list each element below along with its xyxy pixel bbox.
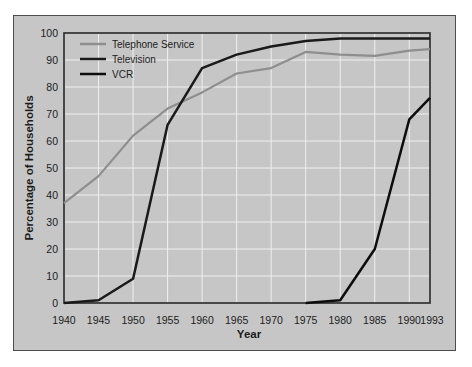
x-tick-label: 1960: [190, 314, 214, 326]
x-tick-label: 1955: [156, 314, 180, 326]
x-tick-label: 1945: [87, 314, 111, 326]
series-line-vcr: [306, 98, 430, 303]
x-tick-label: 1990: [398, 314, 422, 326]
legend-label-television: Television: [112, 54, 156, 65]
households-line-chart: 0102030405060708090100194019451950195519…: [0, 0, 472, 367]
x-axis-title: Year: [237, 328, 261, 340]
x-tick-label: 1975: [294, 314, 318, 326]
legend-label-vcr: VCR: [112, 69, 133, 80]
x-tick-label: 1980: [329, 314, 353, 326]
y-tick-label: 90: [46, 54, 58, 66]
y-tick-label: 60: [46, 135, 58, 147]
x-tick-label: 1993: [420, 314, 444, 326]
x-tick-label: 1965: [225, 314, 249, 326]
y-tick-label: 20: [46, 243, 58, 255]
y-tick-label: 80: [46, 81, 58, 93]
y-tick-label: 70: [46, 108, 58, 120]
y-tick-label: 0: [52, 297, 58, 309]
y-axis-title: Percentage of Households: [23, 95, 35, 240]
y-tick-label: 30: [46, 216, 58, 228]
y-tick-label: 50: [46, 162, 58, 174]
x-tick-label: 1985: [363, 314, 387, 326]
y-tick-label: 10: [46, 270, 58, 282]
x-tick-label: 1940: [52, 314, 76, 326]
x-tick-label: 1950: [121, 314, 145, 326]
y-tick-label: 40: [46, 189, 58, 201]
y-tick-label: 100: [40, 27, 58, 39]
legend-label-telephone-service: Telephone Service: [112, 39, 195, 50]
x-tick-label: 1970: [259, 314, 283, 326]
